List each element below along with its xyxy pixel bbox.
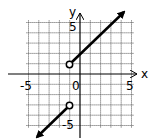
y-tick-min: -5 xyxy=(62,118,74,132)
x-axis-label: x xyxy=(141,67,148,81)
open-point-lower xyxy=(66,102,72,108)
x-tick-max: 5 xyxy=(126,79,134,93)
x-tick-min: -5 xyxy=(20,79,32,93)
y-tick-max: 5 xyxy=(69,20,77,34)
origin-label: 0 xyxy=(72,79,80,93)
y-axis-label: y xyxy=(69,5,76,19)
piecewise-graph: x y -5 0 5 5 -5 xyxy=(0,0,160,140)
open-point-upper xyxy=(66,61,72,67)
